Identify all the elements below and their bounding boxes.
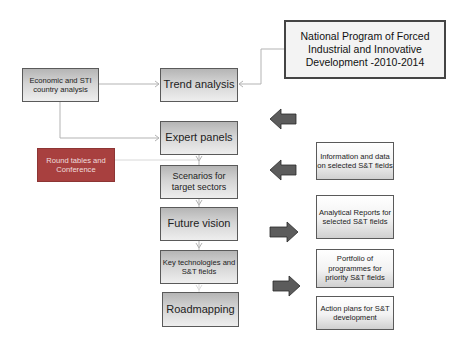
step-scenarios: Scenarios for target sectors: [160, 165, 238, 199]
step-future-vision: Future vision: [160, 207, 238, 241]
national-program-label: National Program of Forced Industrial an…: [286, 30, 444, 69]
step-roadmapping: Roadmapping: [162, 292, 239, 327]
step-expert-panels: Expert panels: [160, 121, 238, 155]
block-arrow-left-icon: [270, 160, 296, 180]
output-label: Information and data on selected S&T fie…: [317, 152, 393, 171]
national-program-box: National Program of Forced Industrial an…: [284, 20, 446, 79]
connector-economic-to-expert: [60, 102, 159, 138]
block-arrow-right-icon: [273, 276, 300, 296]
economic-analysis-label: Economic and STI country analysis: [23, 76, 98, 95]
output-label: Portfolio of programmes for priority S&T…: [317, 254, 393, 282]
output-information: Information and data on selected S&T fie…: [316, 142, 394, 180]
output-portfolio: Portfolio of programmes for priority S&T…: [316, 249, 394, 288]
step-key-technologies: Key technologies and S&T fields: [160, 250, 238, 284]
step-label: Expert panels: [165, 131, 232, 145]
step-label: Scenarios for target sectors: [161, 171, 237, 194]
round-tables-label: Round tables and Conference: [38, 156, 114, 175]
connector-national-to-trend: [239, 49, 284, 84]
block-arrow-right-icon: [270, 222, 298, 242]
output-analytical-reports: Analytical Reports for selected S&T fiel…: [316, 195, 394, 239]
step-label: Roadmapping: [166, 303, 235, 317]
block-arrow-left-icon: [270, 109, 296, 129]
step-label: Key technologies and S&T fields: [161, 258, 237, 277]
step-label: Future vision: [168, 217, 231, 231]
output-label: Analytical Reports for selected S&T fiel…: [317, 208, 393, 227]
step-label: Trend analysis: [163, 78, 234, 92]
economic-analysis-box: Economic and STI country analysis: [22, 68, 99, 102]
output-label: Action plans for S&T development: [317, 304, 393, 323]
round-tables-box: Round tables and Conference: [37, 148, 115, 182]
step-trend-analysis: Trend analysis: [160, 68, 238, 102]
output-action-plans: Action plans for S&T development: [316, 296, 394, 330]
